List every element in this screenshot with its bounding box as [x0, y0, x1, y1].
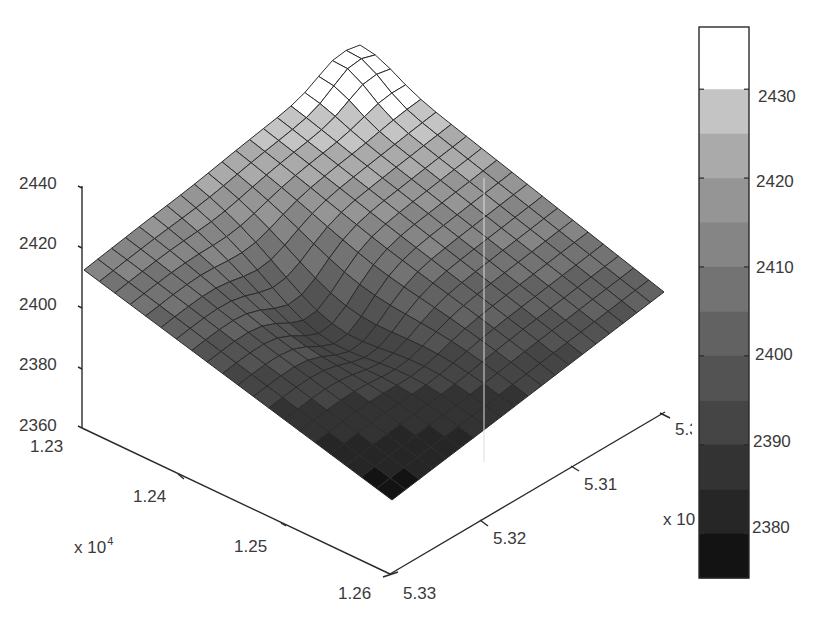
- z-tick-2400: 2400: [19, 295, 57, 315]
- x-tick-1.23: 1.23: [30, 437, 63, 457]
- y-tick-5.32: 5.32: [493, 529, 526, 549]
- colorbar-band: [699, 356, 749, 401]
- x-tick-1.26: 1.26: [338, 584, 371, 604]
- colorbar-tick-2410: 2410: [756, 258, 794, 278]
- colorbar-tick-2400: 2400: [755, 345, 793, 365]
- colorbar-band: [699, 178, 749, 223]
- colorbar-band: [699, 489, 749, 534]
- y-tick-5.31: 5.31: [584, 475, 617, 495]
- colorbar: [699, 27, 749, 579]
- surface-plot: [0, 0, 822, 621]
- y-tick-5.33: 5.33: [403, 584, 436, 604]
- colorbar-band: [699, 400, 749, 445]
- colorbar-band: [699, 27, 749, 90]
- x-axis-multiplier: x 104: [74, 538, 112, 558]
- z-tick-2380: 2380: [19, 355, 57, 375]
- x-tick-1.25: 1.25: [234, 537, 267, 557]
- colorbar-band: [699, 267, 749, 312]
- z-tick-2420: 2420: [19, 234, 57, 254]
- colorbar-band: [699, 534, 749, 579]
- y-axis-multiplier: x 10: [663, 510, 695, 530]
- colorbar-band: [699, 445, 749, 490]
- z-tick-2360: 2360: [19, 416, 57, 436]
- x-tick-1.24: 1.24: [133, 487, 166, 507]
- colorbar-band: [699, 89, 749, 134]
- colorbar-tick-2390: 2390: [753, 432, 791, 452]
- y-tick-5.3: 5.3: [675, 420, 692, 440]
- colorbar-band: [699, 223, 749, 268]
- colorbar-band: [699, 311, 749, 356]
- colorbar-tick-2380: 2380: [752, 518, 790, 538]
- colorbar-tick-2420: 2420: [756, 172, 794, 192]
- surface-mesh: [84, 45, 664, 500]
- colorbar-tick-2430: 2430: [758, 87, 796, 107]
- z-tick-2440: 2440: [19, 174, 57, 194]
- colorbar-band: [699, 134, 749, 179]
